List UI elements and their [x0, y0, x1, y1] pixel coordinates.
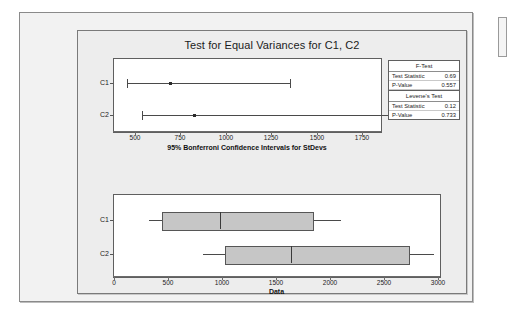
test-statistics-table: F-Test Test Statistic 0.69 P-Value 0.557… [388, 60, 460, 120]
ci-ylabel-c2: C2 [87, 111, 109, 118]
bx-whisker-high-c2 [408, 254, 434, 255]
levenes-test-statistic-label: Test Statistic [392, 103, 425, 109]
ci-line-c2 [142, 115, 389, 116]
ci-xlabel-1: 750 [165, 134, 195, 141]
ci-point-c1 [169, 82, 172, 85]
f-test-statistic-label: Test Statistic [392, 73, 425, 79]
levenes-test-pvalue-value: 0.733 [441, 112, 456, 118]
ci-cap-low-c2 [142, 111, 143, 120]
bx-xlabel-5: 2500 [369, 279, 399, 286]
ci-ytick-c1 [110, 83, 113, 84]
bx-ytick-c2 [110, 254, 113, 255]
bx-xlabel-2: 1000 [207, 279, 237, 286]
bx-whisker-low-c2 [203, 254, 225, 255]
bx-ytick-c1 [110, 220, 113, 221]
ci-xlabel-0: 500 [120, 134, 150, 141]
ci-cap-high-c1 [290, 79, 291, 88]
ci-xlabel-5: 1750 [347, 134, 377, 141]
levenes-test-pvalue-label: P-Value [392, 112, 412, 118]
bx-ylabel-c2: C2 [87, 250, 109, 257]
ci-cap-low-c1 [127, 79, 128, 88]
f-test-pvalue-label: P-Value [392, 82, 412, 88]
f-test-pvalue-value: 0.557 [441, 82, 456, 88]
f-test-pvalue-row: P-Value 0.557 [389, 81, 459, 90]
scrollbar-nub[interactable] [498, 17, 507, 57]
levenes-test-header: Levene's Test [389, 90, 459, 102]
bx-xlabel-3: 1500 [261, 279, 291, 286]
bx-xlabel-4: 2000 [315, 279, 345, 286]
bx-xlabel-0: 0 [99, 279, 129, 286]
boxplot-panel-wrapper: C1 C2 [78, 179, 466, 293]
document-frame: Test for Equal Variances for C1, C2 C1 C… [19, 12, 473, 302]
bx-axis-title: Data [113, 288, 440, 295]
ci-ytick-c2 [110, 115, 113, 116]
levenes-test-statistic-value: 0.12 [445, 103, 456, 109]
bx-median-c1 [220, 212, 221, 229]
bx-ylabel-c1: C1 [87, 216, 109, 223]
ci-point-c2 [193, 114, 196, 117]
bx-box-c1 [162, 212, 314, 231]
ci-xlabel-2: 1000 [211, 134, 241, 141]
levenes-test-statistic-row: Test Statistic 0.12 [389, 102, 459, 111]
ci-ylabel-c1: C1 [87, 79, 109, 86]
f-test-statistic-value: 0.69 [445, 73, 456, 79]
screenshot-root: Test for Equal Variances for C1, C2 C1 C… [0, 0, 515, 316]
ci-xlabel-3: 1250 [256, 134, 286, 141]
ci-xaxis [113, 131, 381, 132]
ci-plot-area [113, 58, 382, 133]
boxplot-plot-area [113, 194, 441, 278]
bx-xlabel-1: 500 [153, 279, 183, 286]
ci-axis-title: 95% Bonferroni Confidence Intervals for … [113, 144, 381, 151]
bx-median-c2 [291, 246, 292, 263]
minitab-graph-card[interactable]: Test for Equal Variances for C1, C2 C1 C… [77, 30, 467, 294]
f-test-header: F-Test [389, 61, 459, 72]
f-test-statistic-row: Test Statistic 0.69 [389, 72, 459, 81]
ci-line-c1 [127, 83, 291, 84]
bx-xlabel-6: 3000 [423, 279, 453, 286]
bx-whisker-high-c1 [312, 220, 341, 221]
levenes-test-pvalue-row: P-Value 0.733 [389, 111, 459, 119]
bx-box-c2 [225, 246, 410, 265]
ci-xlabel-4: 1500 [302, 134, 332, 141]
